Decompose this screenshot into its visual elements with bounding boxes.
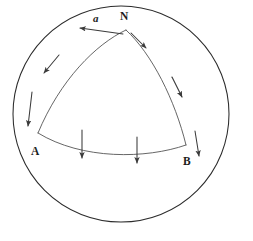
vector-arrow-nb-mid <box>172 77 182 97</box>
transported-vectors <box>28 28 199 163</box>
vector-arrow-apex-left <box>80 28 123 34</box>
geodesic-edges <box>38 30 186 155</box>
vector-arrow-apex-right <box>131 33 146 48</box>
vertex-label-b: B <box>183 156 191 168</box>
vector-arrow-na-mid <box>44 55 59 73</box>
vector-label-a: a <box>93 13 99 24</box>
spherical-triangle-figure: a N A B <box>0 0 253 241</box>
vertex-label-a: A <box>31 146 39 158</box>
figure-canvas <box>0 0 253 241</box>
geodesic-edge-ab <box>38 133 186 155</box>
vertex-label-n: N <box>120 11 128 23</box>
geodesic-edge-na <box>38 30 126 133</box>
sphere-outline <box>13 6 229 222</box>
vector-arrow-nb-low <box>195 131 199 156</box>
vector-arrow-na-low <box>28 92 32 126</box>
